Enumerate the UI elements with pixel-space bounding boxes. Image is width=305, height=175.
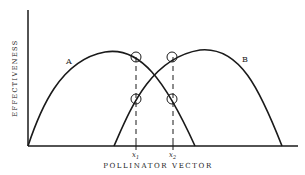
x2-label: x2 — [169, 151, 176, 160]
effectiveness-diagram: A B x1 x2 POLLINATOR VECTOR EFFECTIVENES… — [0, 0, 305, 175]
curve-b — [114, 50, 282, 146]
x-axis-label: POLLINATOR VECTOR — [103, 162, 213, 170]
y-axis-label: EFFECTIVENESS — [11, 39, 19, 116]
intersection-circle-a-x2 — [167, 94, 177, 104]
curve-a-label: A — [65, 57, 72, 66]
curve-a — [28, 51, 195, 146]
curve-b-label: B — [242, 55, 248, 64]
x1-label: x1 — [132, 151, 139, 160]
